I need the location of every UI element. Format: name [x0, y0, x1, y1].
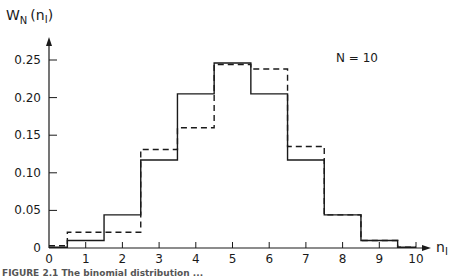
- y-tick-label: 0.15: [14, 128, 41, 142]
- x-axis-arrow-icon: [422, 245, 431, 251]
- y-tick-label: 0.05: [14, 203, 41, 217]
- figure-caption: FIGURE 2.1 The binomial distribution ...: [2, 268, 203, 278]
- y-tick-label: 0.20: [14, 91, 41, 105]
- y-axis-label: WN(nI): [6, 7, 53, 26]
- x-tick-label: 0: [45, 252, 53, 266]
- y-tick-label: 0.25: [14, 53, 41, 67]
- x-tick-label: 3: [155, 252, 163, 266]
- y-axis-arrow-icon: [46, 37, 52, 46]
- x-tick-label: 2: [119, 252, 127, 266]
- x-tick-label: 7: [302, 252, 310, 266]
- x-tick-label: 1: [82, 252, 90, 266]
- y-tick-label: 0: [33, 241, 41, 255]
- histogram-chart: 01234567891000.050.100.150.200.25 WN(nI)…: [0, 0, 460, 278]
- series-solid-step: [49, 63, 416, 247]
- x-tick-label: 6: [265, 252, 273, 266]
- x-tick-label: 5: [229, 252, 237, 266]
- x-tick-label: 9: [375, 252, 383, 266]
- tick-labels: 01234567891000.050.100.150.200.25: [14, 53, 423, 266]
- annotation-n: N = 10: [336, 51, 378, 65]
- x-tick-label: 4: [192, 252, 200, 266]
- x-axis-label: nI: [436, 239, 448, 257]
- x-tick-label: 10: [408, 252, 423, 266]
- x-tick-label: 8: [339, 252, 347, 266]
- y-tick-label: 0.10: [14, 166, 41, 180]
